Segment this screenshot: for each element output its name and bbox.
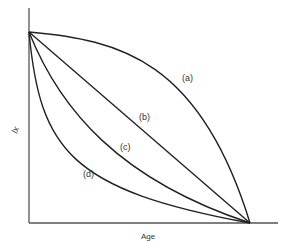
x-axis-label: Age	[141, 232, 155, 241]
curve-label-a: (a)	[182, 74, 193, 83]
curve-label-d: (d)	[83, 170, 94, 179]
curve-label-c: (c)	[120, 143, 131, 152]
curve-label-b: (b)	[139, 113, 150, 122]
curve-b	[29, 32, 250, 223]
